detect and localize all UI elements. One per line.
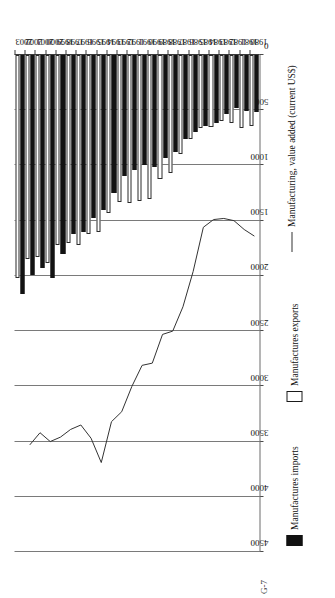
category-axis-tick: [116, 50, 117, 54]
category-axis-tick: [34, 50, 35, 54]
legend-item-label: Manufactures exports: [289, 303, 299, 386]
legend-item-imports: Manufactures imports: [286, 446, 302, 546]
category-axis-tick: [55, 50, 56, 54]
category-axis-tick: [45, 50, 46, 54]
chart-page: G-7 050010001500200025003000350040004500…: [0, 0, 335, 598]
legend-item-value_added: Manufacturing, value added (current US$): [286, 65, 296, 252]
category-axis-tick: [126, 50, 127, 54]
legend-swatch-hollow-icon: [286, 391, 302, 402]
value-added-line: [29, 218, 254, 462]
category-axis-tick: [137, 50, 138, 54]
category-axis-tick: [198, 50, 199, 54]
category-axis-tick: [65, 50, 66, 54]
category-axis-tick: [208, 50, 209, 54]
category-axis-tick: [106, 50, 107, 54]
legend-item-exports: Manufactures exports: [286, 303, 302, 402]
category-axis-tick: [249, 50, 250, 54]
value-added-line-layer: [14, 55, 259, 552]
category-axis-label: 2003: [15, 37, 32, 47]
category-axis-tick: [177, 50, 178, 54]
legend-swatch-filled-icon: [286, 535, 302, 546]
category-axis-tick: [96, 50, 97, 54]
category-axis-tick: [75, 50, 76, 54]
plot-area: 0500100015002000250030003500400045001980…: [14, 55, 259, 552]
legend-swatch-line-icon: [291, 232, 292, 252]
category-axis-tick: [239, 50, 240, 54]
page-corner-label: G-7: [258, 580, 268, 594]
chart-legend: Manufactures importsManufactures exports…: [272, 55, 324, 552]
category-axis-tick: [167, 50, 168, 54]
category-axis-tick: [85, 50, 86, 54]
category-axis-tick: [218, 50, 219, 54]
category-axis-tick: [188, 50, 189, 54]
rotated-figure: G-7 050010001500200025003000350040004500…: [0, 0, 335, 598]
category-axis-tick: [14, 50, 15, 54]
legend-item-label: Manufactures imports: [289, 446, 299, 530]
legend-item-label: Manufacturing, value added (current US$): [286, 65, 296, 227]
category-axis-tick: [24, 50, 25, 54]
category-axis-tick: [228, 50, 229, 54]
category-axis-tick: [157, 50, 158, 54]
category-axis-tick: [147, 50, 148, 54]
